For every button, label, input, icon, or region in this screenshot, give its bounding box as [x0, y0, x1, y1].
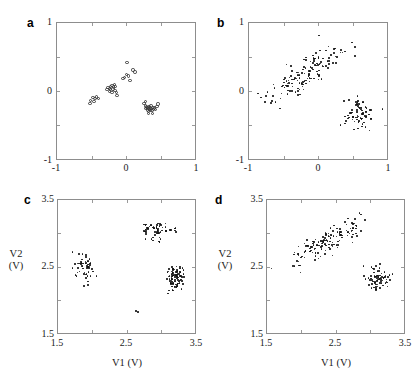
data-point — [165, 230, 167, 232]
data-point — [169, 278, 171, 280]
data-point — [332, 255, 334, 257]
data-point — [328, 63, 330, 65]
data-point — [312, 69, 314, 71]
data-point — [294, 252, 296, 254]
data-point — [169, 275, 171, 277]
data-point — [74, 263, 76, 265]
data-point — [92, 100, 95, 103]
plot-frame-c — [57, 199, 196, 334]
panel-c: c 3.5 2.5 1.5 1.5 2.5 3.5 V2 (V) V1 (V) — [0, 185, 209, 383]
data-point — [313, 78, 315, 80]
axis-tick — [336, 200, 337, 203]
axis-tick — [318, 23, 319, 26]
data-point — [313, 60, 315, 62]
data-point — [352, 234, 354, 236]
axis-tick — [318, 156, 319, 159]
data-point — [354, 46, 356, 48]
data-point — [362, 114, 364, 116]
xtick-label-c-left: 1.5 — [51, 338, 64, 348]
data-point — [310, 246, 312, 248]
data-point — [87, 281, 89, 283]
data-point — [156, 224, 158, 226]
data-point — [314, 259, 316, 261]
data-point — [387, 276, 389, 278]
data-point — [377, 284, 379, 286]
data-point — [260, 97, 262, 99]
data-point — [286, 64, 288, 66]
data-point — [365, 111, 367, 113]
data-point — [311, 67, 313, 69]
axis-tick — [57, 125, 60, 126]
data-point — [299, 77, 301, 79]
ylabel-d-line1: V2 — [211, 248, 239, 260]
data-point — [82, 268, 84, 270]
data-point — [358, 120, 360, 122]
data-point — [375, 289, 377, 291]
data-point — [76, 275, 78, 277]
data-point — [280, 98, 282, 100]
ytick-label-a-top: 1 — [38, 17, 52, 27]
axis-tick — [284, 156, 285, 159]
data-point — [300, 272, 302, 274]
data-point — [384, 271, 386, 273]
data-point — [305, 59, 307, 61]
data-point — [92, 271, 94, 273]
data-point — [183, 269, 185, 271]
data-point — [298, 246, 300, 248]
data-point — [373, 272, 375, 274]
data-point — [325, 50, 327, 52]
data-point — [363, 265, 365, 267]
data-point — [165, 223, 167, 225]
axis-tick — [384, 91, 387, 92]
axis-tick — [353, 23, 354, 26]
xtick-label-b-mid: 0 — [316, 163, 321, 173]
data-point — [150, 225, 152, 227]
data-point — [351, 109, 353, 111]
data-point — [281, 93, 283, 95]
plot-area-b — [249, 23, 387, 159]
data-point — [290, 75, 292, 77]
data-point — [360, 230, 362, 232]
data-point — [86, 267, 88, 269]
data-point — [333, 225, 335, 227]
axis-tick — [92, 330, 93, 333]
data-point — [305, 67, 307, 69]
plot-frame-b — [248, 22, 388, 160]
data-point — [145, 229, 147, 231]
data-point — [125, 61, 128, 64]
data-point — [344, 123, 346, 125]
data-point — [360, 108, 362, 110]
data-point — [147, 112, 150, 115]
ytick-label-d-top: 3.5 — [243, 194, 263, 204]
data-point — [377, 286, 379, 288]
data-point — [309, 251, 311, 253]
data-point — [77, 267, 79, 269]
data-point — [347, 235, 349, 237]
data-point — [275, 101, 277, 103]
axis-tick — [192, 125, 195, 126]
data-point — [145, 233, 147, 235]
data-point — [305, 250, 307, 252]
data-point — [128, 79, 131, 82]
data-point — [346, 224, 348, 226]
axis-tick — [192, 91, 195, 92]
data-point — [298, 74, 300, 76]
data-point — [309, 77, 311, 79]
data-point — [365, 278, 367, 280]
data-point — [351, 236, 353, 238]
data-point — [352, 119, 354, 121]
data-point — [306, 239, 308, 241]
axis-tick — [192, 57, 195, 58]
data-point — [175, 231, 177, 233]
data-point — [328, 57, 330, 59]
data-point — [319, 50, 321, 52]
ytick-label-b-mid: 0 — [230, 86, 244, 96]
data-point — [368, 114, 370, 116]
ytick-label-a-mid: 0 — [38, 86, 52, 96]
data-point — [387, 286, 389, 288]
data-point — [320, 61, 322, 63]
axis-tick — [58, 300, 61, 301]
data-point — [381, 273, 383, 275]
data-point — [348, 99, 350, 101]
data-point — [330, 237, 332, 239]
